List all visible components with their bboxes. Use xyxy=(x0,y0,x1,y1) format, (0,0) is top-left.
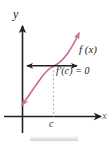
calculus-figure: y x c f (x) f′(c) = 0 xyxy=(0,0,108,145)
function-label: f (x) xyxy=(79,44,97,55)
cropped-caption-strip xyxy=(30,136,78,141)
x-axis-label: x xyxy=(102,110,107,121)
figure-canvas xyxy=(0,0,108,145)
y-axis-label: y xyxy=(13,8,18,20)
derivative-label: f′(c) = 0 xyxy=(56,66,90,76)
c-tick-label: c xyxy=(49,119,53,129)
